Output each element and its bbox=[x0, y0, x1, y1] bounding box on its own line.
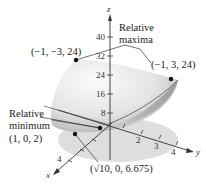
surface-diagram: z 40 32 24 16 8 y 2 3 4 x 4 bbox=[0, 0, 206, 185]
y-axis-arrow-icon bbox=[186, 148, 194, 153]
boundary-point bbox=[73, 132, 77, 136]
y-tick-3: 3 bbox=[154, 141, 159, 151]
y-axis-label: y bbox=[195, 147, 200, 157]
x-tick-4: 4 bbox=[57, 154, 62, 164]
z-tick-16: 16 bbox=[96, 89, 106, 99]
y-tick-4: 4 bbox=[171, 147, 176, 157]
z-axis-arrow-icon bbox=[108, 14, 112, 21]
maxima-label-line2: maxima bbox=[119, 34, 153, 45]
max-point-right-label: (−1, 3, 24) bbox=[151, 59, 196, 71]
z-tick-8: 8 bbox=[101, 108, 106, 118]
y-tick-2: 2 bbox=[136, 135, 141, 145]
minimum-label-line2: minimum bbox=[9, 120, 50, 131]
z-tick-40: 40 bbox=[96, 32, 106, 42]
x-axis-label: x bbox=[45, 170, 50, 180]
minimum-label-line1: Relative bbox=[9, 108, 44, 119]
z-axis-label: z bbox=[106, 4, 111, 14]
z-tick-24: 24 bbox=[96, 70, 106, 80]
max-point-left bbox=[74, 58, 78, 62]
min-point-label: (1, 0, 2) bbox=[9, 133, 43, 145]
boundary-point-label: (√10, 0, 6.675) bbox=[90, 163, 153, 175]
max-point-right bbox=[169, 77, 173, 81]
min-point bbox=[98, 126, 102, 130]
max-point-left-label: (−1, −3, 24) bbox=[31, 46, 82, 58]
maxima-label-line1: Relative bbox=[119, 22, 154, 33]
